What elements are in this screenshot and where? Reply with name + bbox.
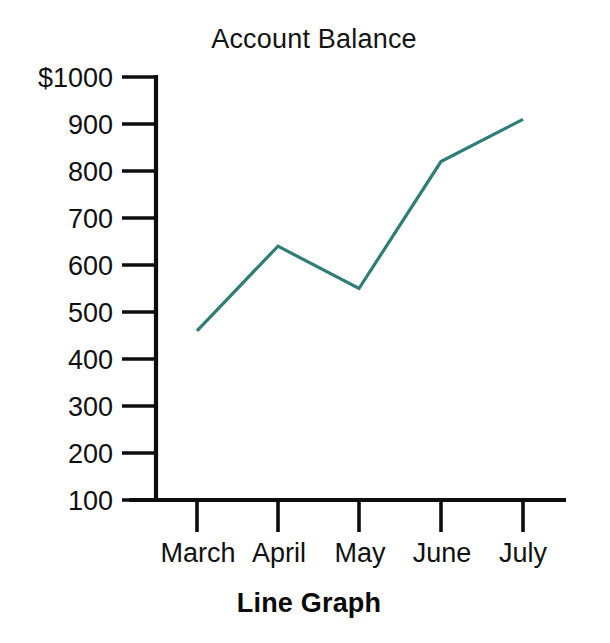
y-label-700: 700: [68, 204, 113, 234]
x-axis-ticks: [197, 500, 523, 532]
y-label-1000: $1000: [38, 63, 113, 93]
y-label-200: 200: [68, 439, 113, 469]
x-label-june: June: [413, 538, 472, 568]
x-label-march: March: [160, 538, 235, 568]
y-axis-ticks: [122, 77, 156, 500]
x-label-may: May: [334, 538, 386, 568]
y-label-800: 800: [68, 157, 113, 187]
data-series-account-balance: [197, 119, 523, 330]
x-axis-labels: March April May June July: [160, 538, 547, 568]
y-label-400: 400: [68, 345, 113, 375]
chart-plot-area: $1000 900 800 700 600 500 400 300 200 10…: [0, 0, 610, 643]
y-label-300: 300: [68, 392, 113, 422]
y-label-500: 500: [68, 298, 113, 328]
x-label-april: April: [252, 538, 306, 568]
y-label-100: 100: [68, 486, 113, 516]
x-label-july: July: [499, 538, 548, 568]
y-label-900: 900: [68, 110, 113, 140]
y-axis-labels: $1000 900 800 700 600 500 400 300 200 10…: [38, 63, 113, 516]
y-label-600: 600: [68, 251, 113, 281]
line-graph-figure: Account Balance $1000 900 800 700 600 50…: [0, 0, 610, 643]
chart-caption: Line Graph: [0, 588, 610, 619]
